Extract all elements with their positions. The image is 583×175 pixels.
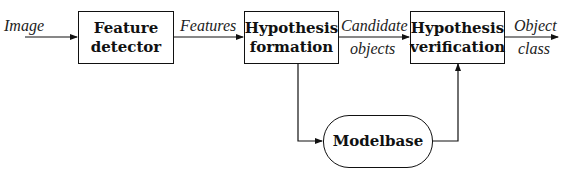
hypothesis-verification-node: Hypothesis verification <box>410 11 505 64</box>
modelbase-node: Modelbase <box>323 115 433 168</box>
edge-label-objects: objects <box>350 40 395 58</box>
hypothesis-verification-line2: verification <box>410 38 505 57</box>
edge-label-image: Image <box>4 17 44 35</box>
edge-label-candidate: Candidate <box>341 17 408 35</box>
modelbase-label: Modelbase <box>333 132 424 151</box>
feature-detector-line2: detector <box>91 38 161 57</box>
feature-detector-line1: Feature <box>94 19 158 38</box>
hypothesis-formation-node: Hypothesis formation <box>244 11 339 64</box>
feature-detector-node: Feature detector <box>78 11 174 64</box>
edge-label-class: class <box>518 40 550 58</box>
hypothesis-verification-line1: Hypothesis <box>411 19 504 38</box>
hypothesis-formation-line2: formation <box>250 38 334 57</box>
hypothesis-formation-line1: Hypothesis <box>245 19 338 38</box>
edge-label-object: Object <box>514 17 557 35</box>
arrow-formation-to-modelbase <box>298 63 322 141</box>
arrow-modelbase-to-verification <box>432 64 458 141</box>
edge-label-features: Features <box>180 17 236 35</box>
